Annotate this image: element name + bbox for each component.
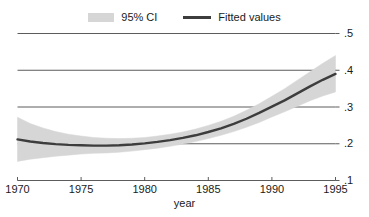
x-tick-label: 1970 <box>5 184 29 195</box>
x-tick-label: 1975 <box>69 184 93 195</box>
x-tick-label: 1990 <box>260 184 284 195</box>
y-tick-label: .3 <box>344 102 353 113</box>
x-tick-label: 1985 <box>196 184 220 195</box>
x-tick-label: 1980 <box>132 184 156 195</box>
y-tick-label: .2 <box>344 138 353 149</box>
plot-area <box>0 0 369 217</box>
x-axis-title: year <box>0 198 369 209</box>
chart-figure: 95% CI Fitted values .1.2.3.4.5 19701975… <box>0 0 369 217</box>
y-tick-label: .5 <box>344 28 353 39</box>
y-tick-label: .4 <box>344 65 353 76</box>
x-tick-label: 1995 <box>323 184 347 195</box>
